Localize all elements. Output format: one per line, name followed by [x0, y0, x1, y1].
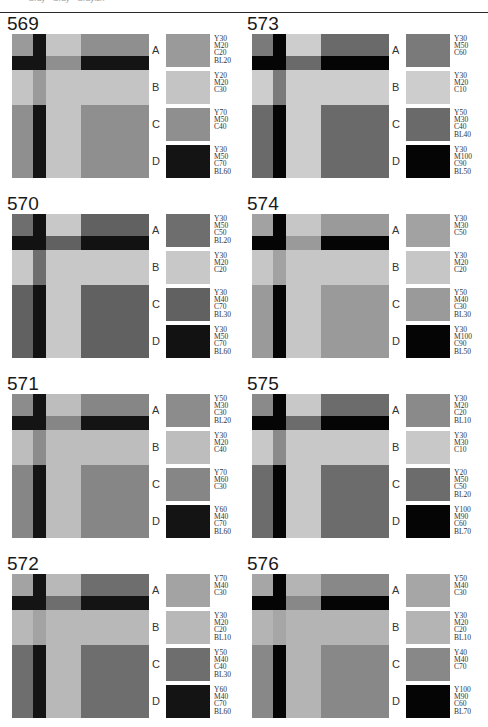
grid-cell [46, 465, 81, 538]
grid-cell [252, 645, 273, 718]
swatch-letter: C [152, 658, 160, 670]
color-swatch [406, 288, 450, 321]
color-swatch [166, 431, 210, 464]
grid-cell [46, 34, 81, 56]
grid-cell [33, 394, 46, 416]
color-swatch [166, 505, 210, 538]
grid-cell [81, 645, 149, 718]
grid-cell [273, 70, 286, 105]
grid-cell [33, 430, 46, 465]
cmyk-code: Y30 M20 C20 BL10 [454, 395, 471, 424]
grid-cell [252, 285, 273, 358]
grid-cell [286, 56, 321, 70]
grid-cell [321, 34, 389, 56]
grid-cell [12, 236, 33, 250]
grid-cell [273, 610, 286, 645]
cmyk-code: Y30 M20 C20 [214, 252, 228, 274]
grid-cell [81, 105, 149, 178]
grid-cell [46, 430, 81, 465]
grid-cell [252, 250, 273, 285]
cmyk-code: Y30 M20 C20 BL10 [454, 612, 471, 641]
grid-cell [46, 394, 81, 416]
grid-cell [252, 430, 273, 465]
cmyk-code: Y50 M40 C30 [454, 575, 468, 597]
cmyk-code: Y30 M40 C70 BL30 [214, 289, 231, 318]
swatch-letter: B [392, 621, 399, 633]
grid-cell [46, 645, 81, 718]
grid-cell [81, 610, 149, 645]
grid-cell [81, 574, 149, 596]
grid-cell [81, 416, 149, 430]
grid-cell [252, 610, 273, 645]
color-swatch [166, 34, 210, 67]
cmyk-code: Y70 M60 C30 [214, 469, 228, 491]
grid-cell [33, 596, 46, 610]
color-swatch [406, 505, 450, 538]
grid-cell [252, 416, 273, 430]
color-panel: 574ABCDY30 M30 C50Y30 M20 C20Y50 M40 C30… [244, 194, 480, 364]
cmyk-code: Y50 M30 C40 BL40 [454, 109, 471, 138]
grid-cell [252, 394, 273, 416]
grid-cell [12, 34, 33, 56]
grid-cell [81, 56, 149, 70]
grid-cell [286, 285, 321, 358]
grid-cell [252, 465, 273, 538]
swatch-letter: D [152, 515, 160, 527]
color-swatch [166, 251, 210, 284]
grid-cell [273, 56, 286, 70]
color-swatch [166, 574, 210, 607]
swatch-letter: A [392, 44, 399, 56]
cmyk-code: Y30 M20 C40 [214, 432, 228, 454]
row-letters: ABCD [392, 574, 404, 718]
cmyk-code: Y30 M30 C50 [454, 215, 468, 237]
color-panel: 569ABCDY30 M20 C20 BL20Y20 M20 C30Y70 M5… [4, 14, 240, 184]
grid-cell [286, 236, 321, 250]
swatch-letter: C [392, 478, 400, 490]
cmyk-code: Y30 M20 C20 BL20 [214, 35, 231, 64]
grid-cell [46, 214, 81, 236]
cmyk-code: Y20 M50 C50 BL20 [454, 469, 471, 498]
grid-cell [273, 430, 286, 465]
grid-cell [46, 416, 81, 430]
grid-cell [273, 416, 286, 430]
grid-cell [321, 645, 389, 718]
swatch-letter: B [392, 441, 399, 453]
swatch-column: Y70 M40 C30Y30 M20 C20 BL10Y50 M40 C40 B… [166, 574, 240, 718]
cmyk-code: Y30 M100 C90 BL50 [454, 146, 472, 175]
panel-number: 573 [247, 14, 279, 34]
grid-cell [33, 236, 46, 250]
grid-cell [321, 430, 389, 465]
swatch-letter: A [152, 44, 159, 56]
swatch-letter: D [392, 695, 400, 707]
grid-cell [81, 430, 149, 465]
header-text: Gray · Gray · Grayish [28, 0, 104, 3]
grid-cell [12, 214, 33, 236]
page-header: Gray · Gray · Grayish [0, 0, 488, 13]
swatch-column: Y30 M50 C60Y30 M20 C10Y50 M30 C40 BL40Y3… [406, 34, 480, 178]
grid-cell [46, 285, 81, 358]
cmyk-code: Y30 M30 C10 [454, 432, 468, 454]
grid-cell [273, 34, 286, 56]
cmyk-code: Y60 M40 C70 BL60 [214, 506, 231, 535]
grid-cell [321, 250, 389, 285]
grid-cell [252, 574, 273, 596]
grid-cell [321, 416, 389, 430]
grid-cell [46, 610, 81, 645]
color-swatch [406, 325, 450, 358]
grid-cell [33, 285, 46, 358]
row-letters: ABCD [392, 214, 404, 358]
cmyk-code: Y50 M30 C30 BL20 [214, 395, 231, 424]
color-swatch [166, 611, 210, 644]
color-combination-grid [252, 34, 389, 178]
color-swatch [406, 251, 450, 284]
color-swatch [166, 468, 210, 501]
cmyk-code: Y30 M100 C90 BL50 [454, 326, 472, 355]
panel-number: 571 [7, 374, 39, 394]
grid-cell [33, 56, 46, 70]
grid-cell [12, 70, 33, 105]
panel-number: 569 [7, 14, 39, 34]
swatch-letter: C [392, 658, 400, 670]
color-swatch [166, 394, 210, 427]
swatch-letter: D [392, 335, 400, 347]
grid-cell [273, 105, 286, 178]
